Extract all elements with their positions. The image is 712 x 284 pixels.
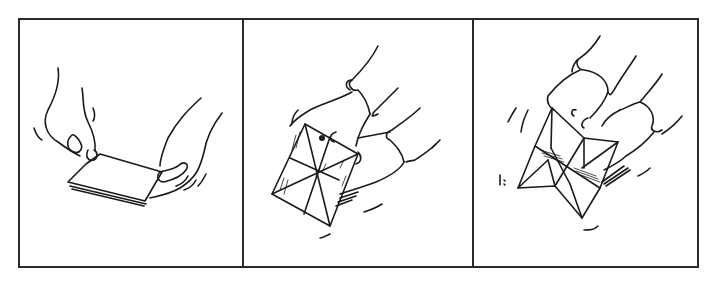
right-hand-outline — [150, 113, 222, 198]
folded-paper — [68, 154, 162, 201]
hands-shaping-fortune-teller-drawing — [474, 20, 698, 266]
lower-hand-outline — [386, 108, 420, 162]
lower-hand-outline — [620, 74, 662, 110]
left-hand-outline — [45, 68, 80, 156]
panel-step-1: Two hands folding a flat rectangle of pa… — [20, 20, 242, 266]
upper-arm-outline — [350, 46, 378, 114]
creased-paper-square — [272, 124, 358, 226]
panel-step-2: Two hands holding the folded square with… — [244, 20, 472, 266]
upper-hand-outline — [577, 36, 608, 92]
panel-step-3: Two hands pushing the paper into a star-… — [474, 20, 698, 266]
hands-folding-paper-drawing — [20, 20, 242, 266]
hands-holding-creased-square-drawing — [244, 20, 472, 266]
